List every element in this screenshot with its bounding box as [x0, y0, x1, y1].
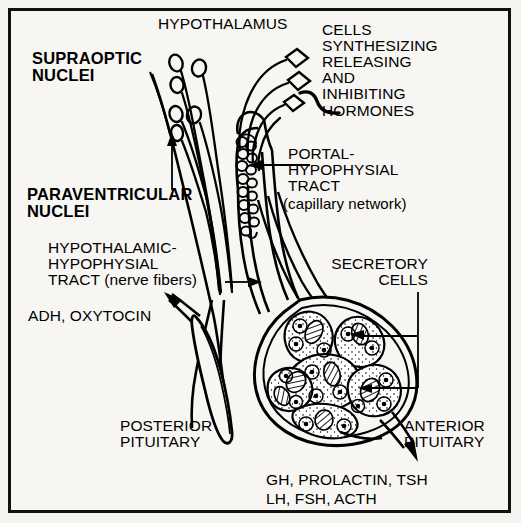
label-portal-hypophysial-tract: PORTAL- HYPOPHYSIAL TRACT: [288, 146, 399, 194]
label-hypothalamus: HYPOTHALAMUS: [158, 16, 288, 32]
releasing-hormone-neuron-bodies: [284, 49, 310, 111]
supraoptic-leader: [150, 72, 170, 134]
label-anterior-hormones-line2: LH, FSH, ACTH: [266, 491, 377, 507]
figure-root: HYPOTHALAMUS SUPRAOPTIC NUCLEI CELLS SYN…: [0, 0, 521, 523]
label-supraoptic-nuclei: SUPRAOPTIC NUCLEI: [32, 50, 142, 84]
label-paraventricular-nuclei: PARAVENTRICULAR NUCLEI: [27, 186, 193, 220]
label-cells-synthesizing-hormones: CELLS SYNTHESIZING RELEASING AND INHIBIT…: [322, 22, 438, 119]
label-anterior-hormones-line1: GH, PROLACTIN, TSH: [266, 472, 428, 488]
label-hypothalamic-hypophysial-tract: HYPOTHALAMIC- HYPOPHYSIAL TRACT (nerve f…: [48, 240, 197, 288]
label-anterior-pituitary: ANTERIOR PITUITARY: [404, 418, 485, 450]
label-posterior-pituitary: POSTERIOR PITUITARY: [120, 418, 212, 450]
label-adh-oxytocin: ADH, OXYTOCIN: [28, 308, 151, 324]
tuberoinfundibular-axons: [239, 60, 288, 170]
label-portal-hypophysial-tract-sub: (capillary network): [283, 196, 407, 212]
label-secretory-cells: SECRETORY CELLS: [300, 256, 428, 288]
paraventricular-arrowhead: [167, 132, 177, 146]
